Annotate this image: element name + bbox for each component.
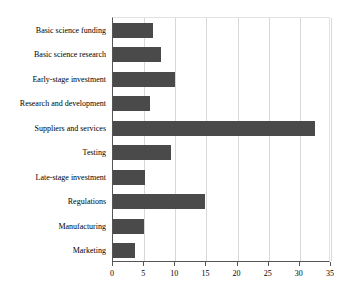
bar-row: Research and development [113,96,329,111]
category-label: Late-stage investment [36,174,113,182]
x-tick-label: 20 [233,270,241,278]
bar-row: Late-stage investment [113,170,329,185]
gridline-35 [331,18,332,261]
category-label: Basic science funding [36,27,113,35]
bar-row: Early-stage investment [113,72,329,87]
bar [113,121,315,136]
bar [113,72,175,87]
x-tick-label: 10 [170,270,178,278]
bar-row: Regulations [113,194,329,209]
x-tick-10 [174,262,175,266]
category-label: Regulations [68,198,113,206]
x-tick-label: 35 [326,270,334,278]
x-tick-30 [299,262,300,266]
category-label: Marketing [73,247,113,255]
x-tick-label: 5 [141,270,145,278]
x-tick-15 [205,262,206,266]
bar [113,243,135,258]
category-label: Testing [83,149,113,157]
x-tick-25 [268,262,269,266]
bars-layer: Basic science fundingBasic science resea… [113,18,329,261]
x-tick-20 [237,262,238,266]
bar [113,96,150,111]
bar-row: Marketing [113,243,329,258]
bar [113,194,205,209]
category-label: Basic science research [34,51,113,59]
x-tick-label: 0 [110,270,114,278]
category-label: Suppliers and services [34,125,113,133]
bar-chart: Basic science fundingBasic science resea… [0,0,357,293]
bar-row: Manufacturing [113,219,329,234]
category-label: Early-stage investment [32,76,113,84]
x-tick-5 [143,262,144,266]
x-tick-label: 15 [201,270,209,278]
category-label: Manufacturing [58,223,113,231]
bar-row: Testing [113,145,329,160]
x-tick-35 [330,262,331,266]
bar-row: Basic science funding [113,23,329,38]
category-label: Research and development [20,100,113,108]
bar-row: Suppliers and services [113,121,329,136]
bar [113,145,171,160]
bar [113,219,144,234]
x-tick-0 [112,262,113,266]
x-tick-label: 30 [295,270,303,278]
bar [113,23,153,38]
x-tick-label: 25 [264,270,272,278]
plot-area: Basic science fundingBasic science resea… [112,17,330,262]
bar-row: Basic science research [113,47,329,62]
bar [113,47,161,62]
bar [113,170,145,185]
